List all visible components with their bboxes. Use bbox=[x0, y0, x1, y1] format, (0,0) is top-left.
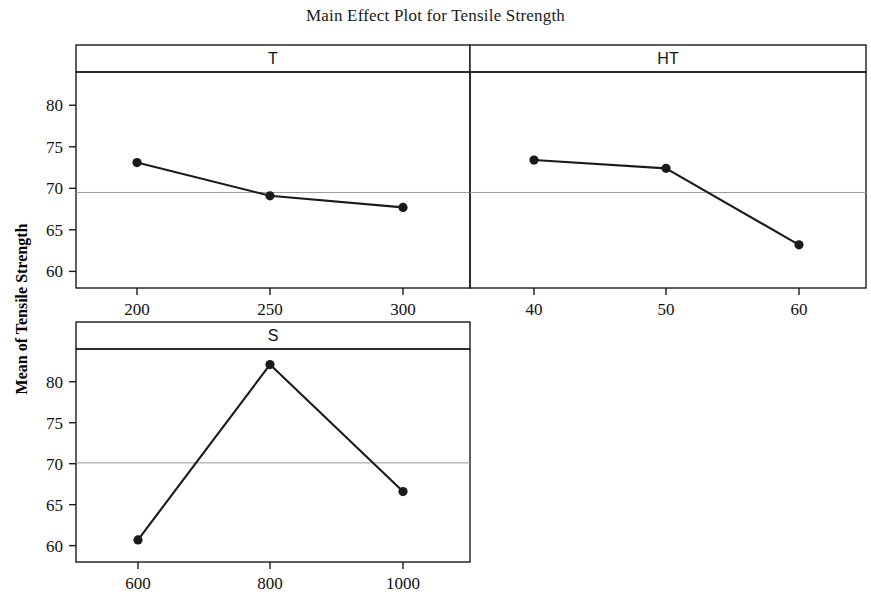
series-line bbox=[137, 163, 403, 208]
x-axis-tick-label: 200 bbox=[124, 300, 150, 319]
panel-frame bbox=[76, 72, 470, 288]
data-point-marker bbox=[398, 487, 407, 496]
x-axis-tick-label: 600 bbox=[125, 574, 151, 593]
plot-canvas: T6065707580200250300HT405060S60657075806… bbox=[0, 0, 871, 597]
x-axis-tick-label: 60 bbox=[791, 300, 808, 319]
y-axis-tick-label: 80 bbox=[46, 96, 63, 115]
data-point-marker bbox=[661, 164, 670, 173]
panel-frame bbox=[76, 349, 470, 562]
y-axis-tick-label: 75 bbox=[46, 414, 63, 433]
y-axis-tick-label: 70 bbox=[46, 179, 63, 198]
panel-header-label: T bbox=[268, 50, 278, 67]
y-axis-tick-label: 65 bbox=[46, 221, 63, 240]
panel-t: T6065707580200250300 bbox=[46, 45, 470, 319]
x-axis-tick-label: 1000 bbox=[386, 574, 420, 593]
y-axis-tick-label: 80 bbox=[46, 373, 63, 392]
panel-header-label: HT bbox=[657, 50, 679, 67]
panel-ht: HT405060 bbox=[470, 45, 866, 319]
panel-s: S60657075806008001000 bbox=[46, 322, 470, 593]
data-point-marker bbox=[398, 203, 407, 212]
data-point-marker bbox=[794, 240, 803, 249]
panel-header-label: S bbox=[268, 327, 279, 344]
y-axis-tick-label: 65 bbox=[46, 496, 63, 515]
x-axis-tick-label: 50 bbox=[658, 300, 675, 319]
data-point-marker bbox=[265, 360, 274, 369]
y-axis-tick-label: 75 bbox=[46, 138, 63, 157]
panel-frame bbox=[470, 72, 866, 288]
data-point-marker bbox=[529, 155, 538, 164]
y-axis-tick-label: 60 bbox=[46, 537, 63, 556]
x-axis-tick-label: 40 bbox=[526, 300, 543, 319]
y-axis-tick-label: 70 bbox=[46, 455, 63, 474]
data-point-marker bbox=[265, 191, 274, 200]
y-axis-tick-label: 60 bbox=[46, 262, 63, 281]
x-axis-tick-label: 300 bbox=[390, 300, 416, 319]
x-axis-tick-label: 250 bbox=[257, 300, 283, 319]
data-point-marker bbox=[133, 535, 142, 544]
x-axis-tick-label: 800 bbox=[257, 574, 283, 593]
main-effect-plot-figure: Main Effect Plot for Tensile Strength Me… bbox=[0, 0, 871, 597]
data-point-marker bbox=[132, 158, 141, 167]
series-line bbox=[138, 365, 403, 540]
